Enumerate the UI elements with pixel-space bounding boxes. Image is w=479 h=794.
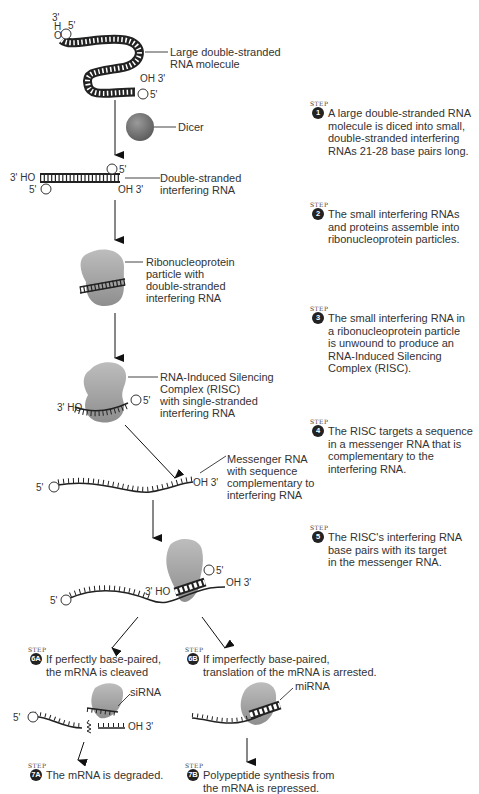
step-4: STEP 4 The RISC targets a sequence in a …	[312, 425, 473, 475]
step-badge: 4	[312, 425, 324, 437]
label-rnp: Ribonucleoprotein particle with double-s…	[146, 256, 235, 304]
end-label: O	[54, 30, 62, 42]
cleavage-icon	[28, 683, 130, 733]
step-badge: 6B	[187, 653, 199, 665]
end-label: 5'	[13, 712, 20, 724]
end-label: OH 3'	[118, 184, 143, 196]
end-label: OH 3'	[140, 73, 165, 85]
label-mirna: miRNA	[295, 680, 330, 692]
end-label: 3' HO	[57, 402, 82, 414]
step-badge: 2	[312, 208, 324, 220]
step-badge: 7A	[30, 769, 42, 781]
step-7a: STEP 7A The mRNA is degraded.	[30, 769, 163, 782]
end-label: OH 3'	[128, 721, 153, 733]
step-6b: STEP 6B If imperfectly base-paired, tran…	[187, 653, 377, 678]
risc-mrna-complex-icon	[61, 539, 225, 605]
translation-arrest-icon	[192, 682, 293, 725]
end-label: 5'	[36, 482, 43, 494]
label-risc: RNA-Induced Silencing Complex (RISC) wit…	[160, 371, 274, 419]
end-label: 3' HO	[145, 586, 170, 598]
end-label: 5'	[216, 565, 223, 577]
label-mrna: Messenger RNA with sequence complementar…	[227, 453, 314, 501]
label-large-dsrna: Large double-stranded RNA molecule	[170, 46, 281, 70]
step-1: STEP 1 A large double-stranded RNA molec…	[312, 107, 471, 157]
step-badge: 3	[312, 312, 324, 324]
dicer-icon	[126, 113, 154, 141]
step-3: STEP 3 The small interfering RNA in a ri…	[312, 312, 465, 375]
end-label: 5'	[50, 595, 57, 607]
step-2: STEP 2 The small interfering RNAs and pr…	[312, 208, 459, 246]
end-label: 5'	[29, 184, 36, 196]
label-sirna: siRNA	[130, 686, 161, 698]
step-badge: 1	[312, 107, 324, 119]
label-dsirna: Double-stranded interfering RNA	[160, 172, 241, 196]
step-badge: 5	[312, 531, 324, 543]
end-label: 5'	[68, 20, 75, 32]
risc-icon	[75, 362, 158, 422]
step-badge: 6A	[30, 653, 42, 665]
end-label: 3' HO	[10, 172, 35, 184]
end-label: 5'	[150, 89, 157, 101]
step-6a: STEP 6A If perfectly base-paired, the mR…	[30, 653, 161, 678]
step-7b: STEP 7B Polypeptide synthesis from the m…	[187, 769, 334, 794]
end-label: 5'	[119, 164, 126, 176]
ribonucleoprotein-icon	[80, 249, 143, 306]
end-label: OH 3'	[226, 577, 251, 589]
step-5: STEP 5 The RISC's interfering RNA base p…	[312, 531, 462, 569]
end-label: OH 3'	[193, 477, 218, 489]
label-dicer: Dicer	[178, 121, 204, 133]
step-badge: 7B	[187, 769, 199, 781]
end-label: 5'	[143, 395, 150, 407]
